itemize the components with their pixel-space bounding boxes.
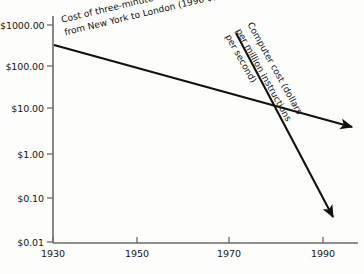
y-axis-ticks (47, 25, 53, 242)
x-tick-label-1970: 1970 (217, 248, 241, 259)
x-axis-ticks (53, 237, 323, 243)
x-tick-label-1990: 1990 (311, 248, 335, 259)
x-tick-label-1950: 1950 (125, 248, 149, 259)
chart-figure: $1000.00 $100.00 $10.00 $1.00 $0.10 $0.0… (0, 0, 364, 274)
series-line-telephone (54, 45, 352, 127)
y-tick-label-0-10: $0.10 (0, 193, 44, 204)
plot-area (0, 0, 364, 274)
x-tick-label-1930: 1930 (41, 248, 65, 259)
y-tick-label-100: $100.00 (0, 61, 44, 72)
y-tick-label-10: $10.00 (0, 103, 44, 114)
y-tick-label-0-01: $0.01 (0, 237, 44, 248)
y-tick-label-1: $1.00 (0, 149, 44, 160)
y-tick-label-1000: $1000.00 (0, 20, 44, 31)
